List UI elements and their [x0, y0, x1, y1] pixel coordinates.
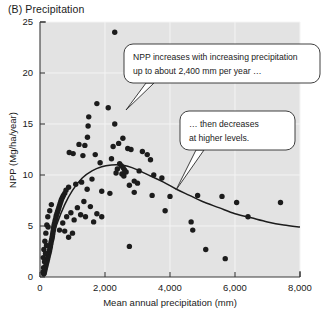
data-point [109, 156, 114, 161]
y-tick-label: 15 [22, 118, 33, 129]
data-point [45, 214, 50, 219]
callout-increase-box [124, 44, 320, 83]
data-point [188, 219, 193, 224]
data-point [84, 187, 89, 192]
data-point [116, 141, 121, 146]
data-point [82, 143, 87, 148]
data-point [135, 180, 140, 185]
data-point [47, 208, 52, 213]
y-tick-label: 5 [28, 220, 33, 231]
data-point [44, 243, 49, 248]
data-point [127, 244, 132, 249]
data-point [112, 30, 117, 35]
data-point [190, 227, 195, 232]
callout-increase-line-2: up to about 2,400 mm per year … [133, 66, 262, 76]
data-point [110, 144, 115, 149]
precipitation-npp-scatter-plot: 0510152025 02,0004,0006,0008,000 NPP (Mg… [0, 0, 322, 317]
data-point [83, 214, 88, 219]
x-tick-label: 6,000 [223, 282, 247, 293]
data-point [223, 256, 228, 261]
data-point [113, 170, 118, 175]
data-point [80, 153, 85, 158]
data-point [49, 202, 54, 207]
data-point [112, 121, 117, 126]
data-point [64, 214, 69, 219]
callout-increase-line-1: NPP increases with increasing precipitat… [133, 52, 298, 62]
data-point [99, 189, 104, 194]
data-point [278, 200, 283, 205]
data-point [89, 176, 94, 181]
data-point [132, 190, 137, 195]
data-point [70, 230, 75, 235]
data-point [76, 142, 81, 147]
callout-decrease-line-1: … then decreases [189, 119, 259, 129]
data-point [71, 217, 76, 222]
y-tick-label: 10 [22, 169, 33, 180]
data-point [75, 205, 80, 210]
data-point [60, 220, 65, 225]
data-point [81, 199, 86, 204]
data-point [57, 227, 62, 232]
data-point [94, 211, 99, 216]
data-point [97, 160, 102, 165]
data-point [68, 210, 73, 215]
x-axis-title: Mean annual precipitation (mm) [103, 297, 237, 308]
data-point [167, 194, 172, 199]
data-point [70, 151, 75, 156]
data-point [99, 214, 104, 219]
data-point [85, 135, 90, 140]
data-point [45, 224, 50, 229]
data-point [162, 208, 167, 213]
data-point [66, 235, 71, 240]
x-tick-label: 0 [37, 282, 42, 293]
data-point [120, 136, 125, 141]
data-point [148, 157, 153, 162]
data-point [127, 183, 132, 188]
y-axis-title: NPP (Mg/ha/year) [7, 112, 18, 188]
data-point [93, 152, 98, 157]
data-point [107, 191, 112, 196]
x-tick-label: 4,000 [158, 282, 182, 293]
data-point [88, 204, 93, 209]
data-point [86, 114, 91, 119]
data-point [85, 123, 90, 128]
data-point [145, 152, 150, 157]
data-point [203, 247, 208, 252]
figure-panel-b-precipitation: (B) Precipitation 0510152025 02,0004,000… [0, 0, 322, 317]
data-point [91, 219, 96, 224]
data-point [78, 212, 83, 217]
data-point [43, 230, 48, 235]
y-tick-label: 0 [28, 271, 33, 282]
data-point [94, 101, 99, 106]
data-point [149, 193, 154, 198]
y-tick-label: 25 [22, 16, 33, 27]
data-point [62, 228, 67, 233]
callout-decrease-box [180, 111, 295, 150]
data-point [128, 147, 133, 152]
x-tick-label: 8,000 [288, 282, 312, 293]
x-tick-label: 2,000 [93, 282, 117, 293]
data-point [121, 173, 126, 178]
callout-decrease-line-2: at higher levels. [189, 133, 249, 143]
data-point [219, 194, 224, 199]
y-tick-label: 20 [22, 67, 33, 78]
data-point [195, 193, 200, 198]
data-point [140, 149, 145, 154]
data-point [106, 105, 111, 110]
data-point [234, 200, 239, 205]
